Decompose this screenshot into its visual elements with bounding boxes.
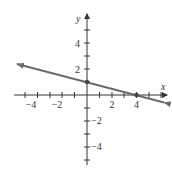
x-tick-label: −2 — [52, 99, 63, 110]
y-intercept-point — [85, 80, 89, 84]
y-tick-label: −4 — [91, 141, 102, 152]
x-axis-label: x — [160, 81, 166, 92]
x-intercept-point — [134, 93, 138, 97]
plotted-line — [17, 64, 164, 103]
x-tick-label: −4 — [26, 99, 37, 110]
x-tick-label: 2 — [110, 99, 115, 110]
y-tick-label: 2 — [75, 64, 80, 75]
y-tick-label: −2 — [91, 115, 102, 126]
coordinate-plane: x y −4 −2 2 4 4 2 −2 −4 — [0, 0, 172, 176]
y-tick-label: 4 — [75, 38, 80, 49]
x-tick-label: 4 — [134, 99, 139, 110]
y-axis-label: y — [75, 13, 81, 24]
